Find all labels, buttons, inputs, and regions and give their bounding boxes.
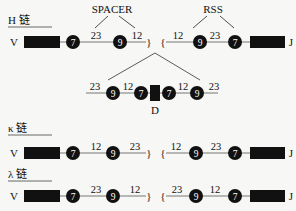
h-right-spacer1: 12 [173, 30, 184, 41]
kappa-chain-label: κ 链 [8, 121, 27, 134]
spacer-pointer-right [119, 16, 135, 28]
h-right-heptamer-text: 7 [233, 38, 238, 48]
kappa-j-label: J [289, 147, 294, 159]
lambda-break-left-icon: } [146, 190, 151, 202]
d-left-nonamer-text: 9 [111, 89, 116, 99]
h-left-spacer1: 23 [91, 30, 102, 41]
kappa-right-heptamer-text: 7 [233, 149, 238, 159]
kappa-left-nonamer-text: 9 [111, 149, 116, 159]
lambda-right-heptamer-text: 7 [233, 192, 238, 202]
h-break-left-icon: } [146, 36, 151, 48]
lambda-j-segment [250, 190, 285, 202]
lambda-v-label: V [10, 190, 18, 202]
vdj-recombination-diagram: SPACER RSS H 链 V 7 23 9 12 } { 12 9 23 7… [0, 0, 296, 211]
h-left-heptamer-text: 7 [71, 38, 76, 48]
lambda-j-label: J [289, 190, 294, 202]
lambda-right-spacer1: 23 [172, 184, 183, 195]
h-left-spacer2: 12 [132, 30, 143, 41]
lambda-left-spacer2: 12 [130, 184, 141, 195]
h-chain-label: H 链 [8, 13, 30, 26]
d-left-spacer-inner: 12 [123, 81, 134, 92]
kappa-break-right-icon: { [160, 147, 165, 159]
d-right-nonamer-text: 9 [195, 89, 200, 99]
d-left-heptamer-text: 7 [139, 89, 144, 99]
lambda-right-spacer2: 12 [210, 184, 221, 195]
lambda-chain-label: λ 链 [8, 167, 27, 180]
rss-pointer-right [220, 16, 234, 28]
h-chain: H 链 V 7 23 9 12 } { 12 9 23 7 J 23 9 12 [8, 13, 294, 116]
spacer-pointer-left [95, 16, 108, 28]
d-segment-row: 23 9 12 7 7 12 9 23 D [86, 81, 219, 116]
kappa-break-left-icon: } [146, 147, 151, 159]
kappa-right-spacer2: 23 [211, 141, 222, 152]
kappa-chain: κ 链 V 7 12 9 23 } { 12 9 23 7 J [8, 121, 294, 160]
h-right-spacer2: 23 [210, 30, 221, 41]
h-j-label: J [289, 36, 294, 48]
kappa-j-segment [250, 147, 285, 159]
kappa-left-spacer1: 12 [91, 141, 102, 152]
kappa-left-heptamer-text: 7 [71, 149, 76, 159]
d-left-spacer-outer: 23 [90, 81, 101, 92]
h-v-label: V [10, 36, 18, 48]
d-label: D [151, 104, 159, 116]
h-v-segment [24, 36, 60, 48]
d-expand-left [108, 53, 155, 80]
d-right-heptamer-text: 7 [167, 89, 172, 99]
lambda-chain: λ 链 V 7 23 9 12 } { 23 9 12 7 J [8, 167, 294, 203]
lambda-break-right-icon: { [160, 190, 165, 202]
lambda-v-segment [24, 190, 60, 202]
h-left-nonamer-text: 9 [118, 38, 123, 48]
h-right-nonamer-text: 9 [198, 38, 203, 48]
kappa-left-spacer2: 23 [130, 141, 141, 152]
lambda-left-heptamer-text: 7 [71, 192, 76, 202]
lambda-left-spacer1: 23 [91, 184, 102, 195]
kappa-v-label: V [10, 147, 18, 159]
spacer-label: SPACER [92, 3, 133, 15]
h-j-segment [250, 36, 285, 48]
lambda-left-nonamer-text: 9 [111, 192, 116, 202]
d-right-spacer-outer: 23 [209, 81, 220, 92]
d-right-spacer-inner: 12 [178, 81, 189, 92]
d-expand-right [155, 53, 200, 80]
kappa-v-segment [24, 147, 60, 159]
rss-pointer-left [193, 16, 207, 28]
kappa-right-nonamer-text: 9 [194, 149, 199, 159]
h-break-right-icon: { [160, 36, 165, 48]
rss-label: RSS [203, 3, 223, 15]
d-segment [150, 85, 160, 101]
kappa-right-spacer1: 12 [171, 141, 182, 152]
lambda-right-nonamer-text: 9 [194, 192, 199, 202]
